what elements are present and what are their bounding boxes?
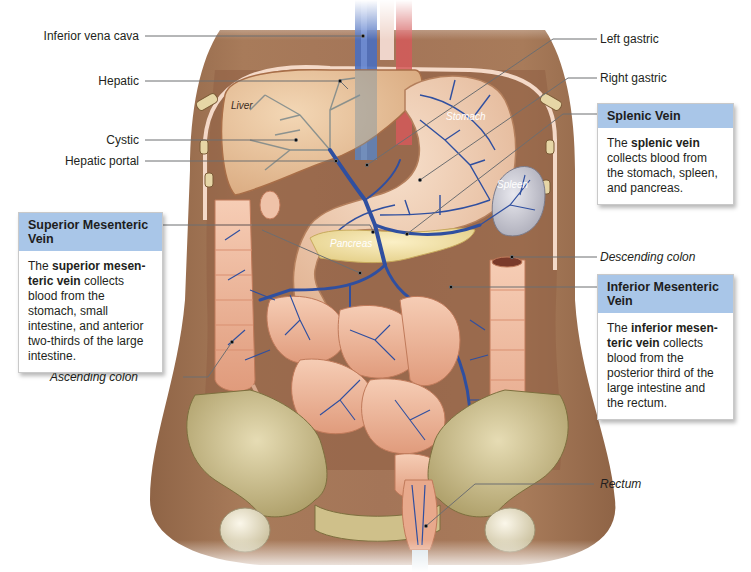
label-rectum: Rectum: [600, 477, 641, 491]
info-box-body: The inferior mesen-teric vein collects b…: [598, 313, 733, 419]
organ-label-spleen: Spleen: [497, 178, 528, 192]
info-box-body: The superior mesen-teric vein collects b…: [19, 251, 162, 372]
label-descending-colon: Descending colon: [600, 250, 695, 264]
info-box-inferior-mesenteric-vein: Inferior Mesenteric Vein The inferior me…: [597, 274, 734, 420]
organ-label-pancreas: Pancreas: [330, 237, 372, 251]
label-hepatic: Hepatic: [98, 74, 139, 88]
info-box-splenic-vein: Splenic Vein The splenic vein collects b…: [597, 103, 734, 205]
info-box-title: Splenic Vein: [598, 104, 733, 128]
label-right-gastric: Right gastric: [600, 71, 667, 85]
info-box-title: Superior Mesenteric Vein: [19, 213, 162, 251]
label-cystic: Cystic: [106, 133, 139, 147]
organ-label-liver: Liver: [231, 99, 253, 113]
label-left-gastric: Left gastric: [600, 32, 659, 46]
organ-label-stomach: Stomach: [446, 110, 485, 124]
label-hepatic-portal: Hepatic portal: [65, 154, 139, 168]
label-inferior-vena-cava: Inferior vena cava: [44, 29, 139, 43]
info-box-body: The splenic vein collects blood from the…: [598, 128, 733, 204]
info-box-title: Inferior Mesenteric Vein: [598, 275, 733, 313]
info-box-superior-mesenteric-vein: Superior Mesenteric Vein The superior me…: [18, 212, 163, 373]
